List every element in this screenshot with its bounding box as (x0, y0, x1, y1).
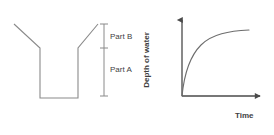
part-b-label: Part B (110, 33, 132, 41)
depth-vs-time-chart-panel: Depth of water Time (137, 0, 274, 135)
part-a-label: Part A (110, 66, 132, 74)
vessel-outline-path (14, 24, 98, 98)
x-axis-label: Time (235, 112, 254, 120)
depth-curve (182, 30, 249, 96)
y-axis-label: Depth of water (143, 29, 151, 91)
height-scale-bar (100, 24, 108, 96)
vessel-diagram-panel: Part B Part A (0, 0, 137, 135)
figure-container: Part B Part A Depth of water Time (0, 0, 274, 135)
